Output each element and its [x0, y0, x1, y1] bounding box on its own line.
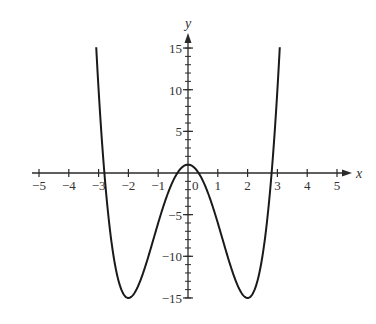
x-tick-label: 2: [244, 178, 251, 193]
x-tick-label: 0: [192, 178, 199, 193]
y-tick-label: −15: [162, 291, 182, 306]
y-tick-label: 10: [169, 83, 182, 98]
y-tick-label: 5: [176, 124, 183, 139]
function-graph: −5−4−3−2−101234515105−5−10−15 x y: [0, 0, 376, 324]
x-axis-arrow-icon: [342, 170, 352, 177]
x-axis-label: x: [355, 166, 363, 181]
x-tick-label: 3: [274, 178, 281, 193]
x-tick-label: −1: [151, 178, 165, 193]
x-tick-label: −3: [92, 178, 106, 193]
x-tick-label: 1: [215, 178, 222, 193]
y-tick-label: −10: [162, 249, 182, 264]
y-tick-label: −5: [168, 208, 182, 223]
y-axis-arrow-icon: [185, 33, 192, 43]
y-tick-label: 15: [169, 41, 182, 56]
x-tick-label: −2: [121, 178, 135, 193]
y-axis-label: y: [183, 16, 192, 31]
x-tick-label: −4: [62, 178, 76, 193]
x-tick-label: 5: [334, 178, 341, 193]
x-tick-label: 4: [304, 178, 311, 193]
x-tick-label: −5: [32, 178, 46, 193]
